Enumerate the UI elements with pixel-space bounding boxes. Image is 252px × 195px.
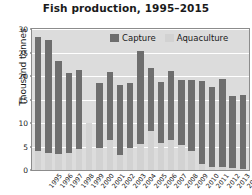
bar-segment-aquaculture (55, 154, 61, 170)
bar-segment-capture (76, 70, 82, 148)
bar-stack (86, 123, 92, 170)
bar-segment-aquaculture (240, 169, 246, 170)
bar-segment-capture (199, 81, 205, 164)
y-axis-ticks: 051015202530 (0, 28, 30, 171)
bar-group[interactable] (43, 29, 53, 170)
bar-segment-aquaculture (178, 145, 184, 170)
bar-stack (55, 61, 61, 170)
bar-group[interactable] (217, 29, 227, 170)
bar-stack (137, 51, 143, 170)
bar-segment-capture (96, 83, 102, 149)
bar-segment-aquaculture (66, 153, 72, 170)
bar-segment-capture (240, 95, 246, 169)
bar-stack (188, 80, 194, 170)
bar-segment-aquaculture (45, 153, 51, 170)
bar-group[interactable] (64, 29, 74, 170)
legend-swatch-icon (165, 34, 174, 42)
bar-segment-aquaculture (219, 167, 225, 170)
bar-group[interactable] (146, 29, 156, 170)
chart-legend: CaptureAquaculture (110, 33, 228, 43)
bar-group[interactable] (105, 29, 115, 170)
bar-segment-aquaculture (148, 131, 154, 170)
chart-figure: Fish production, 1995–2015 Thousand tonn… (0, 0, 252, 195)
bar-series-container (32, 29, 249, 170)
bar-stack (45, 40, 51, 170)
y-axis-tick-label: 5 (23, 142, 28, 151)
y-axis-tick-label: 15 (18, 95, 28, 104)
y-axis-tick-label: 20 (18, 72, 28, 81)
bar-segment-aquaculture (107, 140, 113, 170)
legend-entry[interactable]: Aquaculture (165, 33, 228, 43)
bar-segment-capture (188, 80, 194, 151)
legend-entry[interactable]: Capture (110, 33, 156, 43)
bar-group[interactable] (238, 29, 248, 170)
bar-stack (148, 68, 154, 170)
bar-segment-capture (117, 85, 123, 155)
bar-segment-aquaculture (117, 155, 123, 170)
bar-group[interactable] (84, 29, 94, 170)
bar-group[interactable] (156, 29, 166, 170)
bar-group[interactable] (125, 29, 135, 170)
bar-stack (127, 83, 133, 170)
x-axis-ticks: 1995199619971998199920002001200220032004… (31, 172, 250, 195)
bar-stack (66, 73, 72, 170)
bar-stack (219, 79, 225, 170)
bar-segment-aquaculture (168, 140, 174, 170)
bar-segment-capture (137, 51, 143, 145)
bar-group[interactable] (135, 29, 145, 170)
bar-segment-capture (55, 61, 61, 155)
bar-stack (107, 72, 113, 170)
bar-group[interactable] (197, 29, 207, 170)
bar-segment-capture (66, 73, 72, 153)
bar-stack (96, 83, 102, 170)
bar-segment-aquaculture (86, 123, 92, 170)
bar-segment-capture (107, 72, 113, 140)
bar-segment-aquaculture (229, 168, 235, 170)
bar-stack (35, 37, 41, 170)
bar-stack (117, 85, 123, 170)
bar-group[interactable] (176, 29, 186, 170)
bar-segment-capture (178, 80, 184, 145)
bar-stack (168, 71, 174, 170)
bar-segment-aquaculture (158, 143, 164, 170)
bar-segment-aquaculture (35, 151, 41, 170)
bar-group[interactable] (53, 29, 63, 170)
bar-stack (229, 96, 235, 170)
bar-segment-aquaculture (199, 164, 205, 170)
bar-segment-capture (219, 79, 225, 167)
bar-group[interactable] (166, 29, 176, 170)
chart-title: Fish production, 1995–2015 (0, 2, 252, 14)
bar-segment-capture (148, 68, 154, 132)
bar-group[interactable] (94, 29, 104, 170)
bar-group[interactable] (115, 29, 125, 170)
bar-group[interactable] (33, 29, 43, 170)
bar-segment-aquaculture (188, 151, 194, 170)
bar-group[interactable] (227, 29, 237, 170)
y-axis-tick-label: 10 (18, 119, 28, 128)
bar-stack (240, 95, 246, 170)
legend-label: Capture (122, 33, 156, 43)
bar-segment-capture (229, 96, 235, 168)
bar-group[interactable] (187, 29, 197, 170)
bar-stack (76, 70, 82, 170)
bar-segment-aquaculture (137, 144, 143, 170)
bar-segment-capture (158, 82, 164, 143)
legend-label: Aquaculture (177, 33, 228, 43)
bar-stack (178, 80, 184, 170)
bar-group[interactable] (207, 29, 217, 170)
legend-swatch-icon (110, 34, 119, 42)
y-axis-tick-label: 0 (23, 166, 28, 175)
bar-stack (209, 87, 215, 170)
y-axis-tick-label: 30 (18, 25, 28, 34)
bar-group[interactable] (74, 29, 84, 170)
bar-segment-capture (209, 87, 215, 166)
y-axis-tick-label: 25 (18, 48, 28, 57)
bar-segment-aquaculture (127, 148, 133, 170)
bar-segment-capture (168, 71, 174, 140)
bar-segment-aquaculture (96, 148, 102, 170)
bar-segment-capture (45, 40, 51, 153)
bar-stack (199, 81, 205, 170)
bar-segment-capture (127, 83, 133, 148)
bar-segment-aquaculture (76, 149, 82, 170)
plot-area (31, 28, 250, 171)
